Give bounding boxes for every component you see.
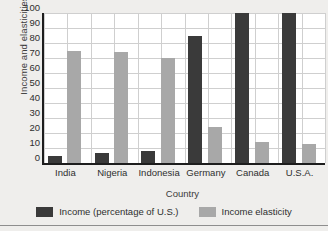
legend-item: Income elasticity <box>199 206 292 217</box>
figure-bottom-rule <box>0 225 328 231</box>
bar <box>95 153 109 164</box>
x-axis-tick-labels: IndiaNigeriaIndonesiaGermanyCanadaU.S.A. <box>42 167 323 178</box>
bar <box>141 151 155 163</box>
bar <box>67 51 81 164</box>
legend-color-swatch <box>199 207 216 217</box>
x-axis-tick-label: India <box>42 167 89 178</box>
y-axis-tick-label: 80 <box>29 32 40 43</box>
y-axis-tick-label: 0 <box>35 152 40 163</box>
bar <box>235 13 249 163</box>
y-axis-tick-label: 50 <box>29 77 40 88</box>
chart-figure: Income and elasticities 1009080706050403… <box>0 0 328 231</box>
legend-label: Income (percentage of U.S.) <box>59 206 178 217</box>
y-axis-tick-label: 30 <box>29 107 40 118</box>
x-axis-tick-label: U.S.A. <box>276 167 323 178</box>
bar <box>208 127 222 163</box>
y-axis-tick-label: 10 <box>29 137 40 148</box>
y-axis-tick-label: 100 <box>24 2 40 13</box>
bar <box>188 36 202 164</box>
x-axis-tick-label: Indonesia <box>136 167 183 178</box>
y-axis-tick-label: 40 <box>29 92 40 103</box>
bar <box>161 58 175 163</box>
y-axis-tick-label: 90 <box>29 17 40 28</box>
bar <box>255 142 269 163</box>
bar-group <box>44 13 91 163</box>
bar <box>48 156 62 164</box>
chart-legend: Income (percentage of U.S.)Income elasti… <box>0 206 328 217</box>
x-axis-tick-label: Canada <box>229 167 276 178</box>
legend-color-swatch <box>36 207 53 217</box>
bar-group <box>184 13 231 163</box>
legend-label: Income elasticity <box>222 206 292 217</box>
y-axis-tick-label: 70 <box>29 47 40 58</box>
bar <box>282 13 296 163</box>
bar-group <box>231 13 278 163</box>
legend-item: Income (percentage of U.S.) <box>36 206 178 217</box>
bar <box>302 144 316 164</box>
x-axis-title: Country <box>42 188 323 199</box>
gridline-vertical <box>325 13 326 163</box>
bar-group <box>138 13 185 163</box>
y-axis-tick-label: 60 <box>29 62 40 73</box>
x-axis-tick-label: Nigeria <box>89 167 136 178</box>
bar <box>114 52 128 163</box>
bar-group <box>278 13 325 163</box>
y-axis-tick-label: 20 <box>29 122 40 133</box>
x-axis-tick-label: Germany <box>182 167 229 178</box>
plot-area <box>42 13 325 165</box>
y-axis-tick-labels: 1009080706050403020100 <box>16 7 40 169</box>
bar-group <box>91 13 138 163</box>
bar-groups <box>44 13 325 163</box>
